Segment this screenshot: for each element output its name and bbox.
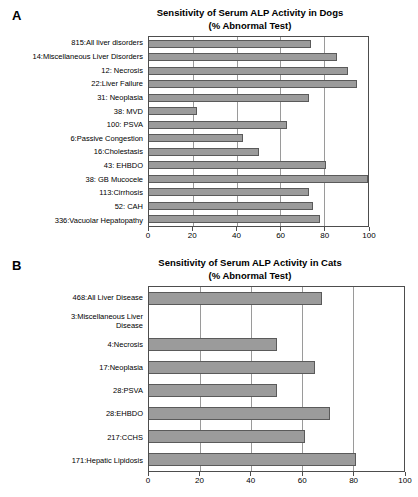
y-tick — [148, 356, 149, 357]
x-tick-label: 60 — [276, 231, 285, 240]
bar — [149, 148, 259, 156]
y-tick — [148, 310, 149, 311]
category-label: 38: MVD — [0, 104, 148, 118]
y-tick — [148, 91, 149, 92]
bar — [149, 430, 305, 444]
x-tick-label: 100 — [362, 231, 375, 240]
panel-a-category-labels: 815:All liver disorders14:Miscellaneous … — [0, 36, 148, 227]
y-tick — [148, 425, 149, 426]
bar — [149, 384, 277, 398]
panel-b-title: Sensitivity of Serum ALP Activity in Cat… — [100, 256, 400, 282]
panel-b-plot-area: 468:All Liver Disease3:Miscellaneous Liv… — [0, 286, 418, 486]
panel-b-title-line2: (% Abnormal Test) — [100, 269, 400, 282]
y-tick — [148, 159, 149, 160]
bar — [149, 175, 368, 183]
x-tick-label: 100 — [398, 476, 411, 485]
y-tick — [148, 402, 149, 403]
y-tick — [148, 172, 149, 173]
y-tick — [148, 118, 149, 119]
x-tick-label: 80 — [320, 231, 329, 240]
bar-row — [149, 37, 368, 51]
category-label: 16:Cholestasis — [0, 145, 148, 159]
bar — [149, 53, 337, 61]
panel-b-title-line1: Sensitivity of Serum ALP Activity in Cat… — [158, 257, 341, 268]
bar-row — [149, 159, 368, 173]
category-label: 52: CAH — [0, 200, 148, 214]
x-tick-label: 0 — [146, 231, 150, 240]
bar-row — [149, 172, 368, 186]
category-label: 17:Neoplasia — [0, 356, 148, 379]
bar — [149, 107, 197, 115]
category-label: 100: PSVA — [0, 118, 148, 132]
bar-row — [149, 132, 368, 146]
panel-a: A Sensitivity of Serum ALP Activity in D… — [0, 0, 418, 250]
y-tick — [148, 64, 149, 65]
x-tick-label: 80 — [349, 476, 358, 485]
bar-row — [149, 448, 404, 471]
panel-a-letter: A — [12, 8, 21, 23]
bar-row — [149, 199, 368, 213]
bar — [149, 292, 322, 306]
bar-row — [149, 145, 368, 159]
bar — [149, 453, 356, 467]
y-tick — [148, 379, 149, 380]
bar-row — [149, 402, 404, 425]
gridline — [302, 287, 303, 471]
bar — [149, 215, 320, 223]
figure-root: A Sensitivity of Serum ALP Activity in D… — [0, 0, 418, 497]
bar-row — [149, 78, 368, 92]
bar-row — [149, 379, 404, 402]
y-tick — [148, 132, 149, 133]
bar — [149, 161, 326, 169]
category-label: 38: GB Mucocele — [0, 172, 148, 186]
bar-row — [149, 64, 368, 78]
x-tick-label: 20 — [188, 231, 197, 240]
y-tick — [148, 105, 149, 106]
panel-a-title-line2: (% Abnormal Test) — [100, 19, 400, 32]
bar-row — [149, 356, 404, 379]
panel-a-x-axis: 020406080100 — [148, 227, 369, 241]
y-tick — [148, 213, 149, 214]
bar — [149, 40, 311, 48]
x-tick-label: 60 — [298, 476, 307, 485]
x-tick-label: 40 — [232, 231, 241, 240]
bar — [149, 338, 277, 352]
bar-row — [149, 105, 368, 119]
category-label: 31: Neoplasia — [0, 91, 148, 105]
panel-b-category-labels: 468:All Liver Disease3:Miscellaneous Liv… — [0, 286, 148, 472]
category-label: 3:Miscellaneous Liver Disease — [0, 309, 148, 332]
y-tick — [148, 145, 149, 146]
bar — [149, 121, 287, 129]
bar-row — [149, 425, 404, 448]
bar — [149, 361, 315, 375]
category-label: 4:Necrosis — [0, 333, 148, 356]
panel-a-title: Sensitivity of Serum ALP Activity in Dog… — [100, 6, 400, 32]
bar-row — [149, 333, 404, 356]
bar-row — [149, 51, 368, 65]
x-tick-label: 0 — [146, 476, 150, 485]
category-label: 12: Necrosis — [0, 63, 148, 77]
panel-a-plot — [148, 36, 369, 227]
gridline — [200, 287, 201, 471]
category-label: 217:CCHS — [0, 426, 148, 449]
gridline — [280, 37, 281, 226]
gridline — [237, 37, 238, 226]
bar-row — [149, 186, 368, 200]
category-label: 43: EHBDO — [0, 159, 148, 173]
category-label: 14:Miscellaneous Liver Disorders — [0, 50, 148, 64]
category-label: 815:All liver disorders — [0, 36, 148, 50]
bar-row — [149, 310, 404, 333]
gridline — [251, 287, 252, 471]
panel-a-title-line1: Sensitivity of Serum ALP Activity in Dog… — [157, 7, 344, 18]
x-tick-label: 40 — [246, 476, 255, 485]
bar — [149, 202, 313, 210]
bar — [149, 407, 330, 421]
category-label: 171:Hepatic Lipidosis — [0, 449, 148, 472]
bar-row — [149, 287, 404, 310]
y-tick — [148, 287, 149, 288]
y-tick — [148, 333, 149, 334]
y-tick — [148, 37, 149, 38]
category-label: 6:Passive Congestion — [0, 131, 148, 145]
bar — [149, 134, 243, 142]
y-tick — [148, 78, 149, 79]
